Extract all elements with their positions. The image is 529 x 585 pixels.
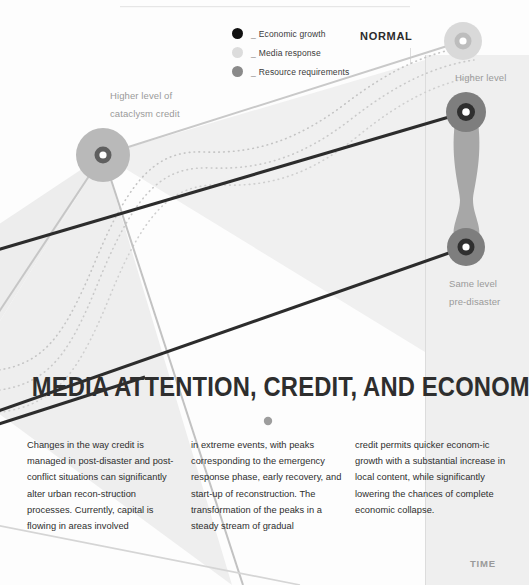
legend-item-media-response[interactable]: Media response (232, 44, 349, 61)
filled-circle-icon (232, 47, 243, 58)
annotation-normal: NORMAL (360, 30, 412, 42)
body-column-3: credit permits quicker econom-ic growth … (355, 437, 507, 534)
marker-cataclysm-credit (76, 128, 130, 182)
annotation-higher-level: Higher level (455, 69, 506, 87)
legend-label: Economic growth (251, 29, 326, 39)
legend-item-resource-requirements[interactable]: Resource requirements (232, 63, 349, 80)
annotation-same-level-line2: pre-disaster (449, 293, 500, 311)
annotation-cataclysm-credit: Higher level of cataclysm credit (110, 87, 180, 123)
chart-legend: Economic growth Media response Resource … (232, 25, 349, 82)
annotation-same-level-line1: Same level (449, 275, 500, 293)
page-title: MEDIA ATTENTION, CREDIT, AND ECONOMIC GR… (32, 372, 498, 403)
body-column-1: Changes in the way credit is managed in … (27, 437, 179, 534)
infographic-page: Economic growth Media response Resource … (0, 0, 529, 585)
body-text: Changes in the way credit is managed in … (27, 437, 179, 534)
accent-dot (264, 417, 272, 425)
filled-circle-icon (232, 66, 243, 77)
annotation-same-level: Same level pre-disaster (449, 275, 500, 311)
legend-label: Media response (251, 48, 321, 58)
resource-connector (454, 122, 480, 240)
annotation-time-axis: TIME (470, 558, 496, 569)
filled-circle-icon (232, 28, 243, 39)
marker-normal (444, 22, 482, 60)
marker-same-level (447, 228, 485, 266)
body-text: in extreme events, with peaks correspond… (191, 437, 343, 534)
legend-label: Resource requirements (251, 67, 349, 77)
top-rule (120, 6, 410, 7)
body-column-2: in extreme events, with peaks correspond… (191, 437, 343, 534)
body-text: credit permits quicker econom-ic growth … (355, 437, 507, 518)
marker-higher-level (446, 92, 486, 132)
legend-item-economic-growth[interactable]: Economic growth (232, 25, 349, 42)
annotation-cataclysm-line2: cataclysm credit (110, 105, 180, 123)
body-columns: Changes in the way credit is managed in … (27, 437, 507, 534)
annotation-cataclysm-line1: Higher level of (110, 87, 180, 105)
